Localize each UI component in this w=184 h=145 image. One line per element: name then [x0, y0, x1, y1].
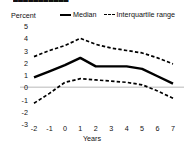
x-tick-label: -1 — [46, 124, 52, 133]
y-tick-label: 4 — [8, 34, 28, 43]
series-line-upper-quartile — [34, 38, 173, 64]
x-tick-label: 2 — [94, 124, 98, 133]
y-tick-label: -1 — [8, 95, 28, 104]
y-tick-label: 0 — [8, 83, 28, 92]
y-tick-label: 2 — [8, 58, 28, 67]
chart-container: ▄▄▄▄▄▄▄▄▄▄▄ Percent Median Interquartile… — [0, 0, 184, 145]
series-line-median — [34, 58, 173, 84]
data-series-group — [34, 38, 173, 103]
x-tick-label: 3 — [109, 124, 113, 133]
y-tick-label: -2 — [8, 107, 28, 116]
x-axis-title: Years — [0, 134, 184, 143]
x-tick-label: 6 — [156, 124, 160, 133]
y-tick-label: 3 — [8, 46, 28, 55]
x-tick-label: 4 — [125, 124, 129, 133]
x-tick-label: 0 — [63, 124, 67, 133]
y-tick-label: 5 — [8, 22, 28, 31]
series-line-lower-quartile — [34, 79, 173, 104]
y-tick-label: 1 — [8, 71, 28, 80]
x-tick-label: -2 — [31, 124, 37, 133]
x-tick-label: 5 — [140, 124, 144, 133]
x-tick-label: 1 — [78, 124, 82, 133]
x-tick-label: 7 — [171, 124, 175, 133]
